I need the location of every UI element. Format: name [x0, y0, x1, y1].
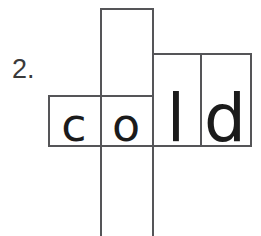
- letter-box-c-left-edge: [48, 95, 50, 147]
- word-row-bottom-edge: [48, 145, 252, 147]
- divider-c-o: [100, 95, 102, 147]
- ascender-box-top-edge: [100, 8, 154, 10]
- worksheet-canvas: 2. c o l d: [0, 0, 261, 236]
- letter-glyph-d: d: [204, 88, 246, 151]
- letter-glyph-l: l: [167, 88, 185, 151]
- letter-box-d-right-edge: [250, 53, 252, 147]
- tall-boxes-top-edge: [152, 53, 252, 55]
- descender-line-left: [100, 145, 102, 236]
- divider-o-l: [152, 53, 154, 147]
- letter-cell-d: d: [200, 53, 250, 145]
- letter-cell-l: l: [152, 53, 200, 145]
- descender-line-right: [152, 145, 154, 236]
- letter-glyph-c: c: [61, 104, 86, 148]
- letter-cell-o: o: [100, 95, 152, 145]
- letter-glyph-o: o: [112, 104, 140, 148]
- divider-l-d: [200, 53, 202, 147]
- item-number-label: 2.: [12, 56, 35, 83]
- ascender-box-left-edge: [100, 8, 102, 97]
- letter-cell-c: c: [48, 95, 100, 145]
